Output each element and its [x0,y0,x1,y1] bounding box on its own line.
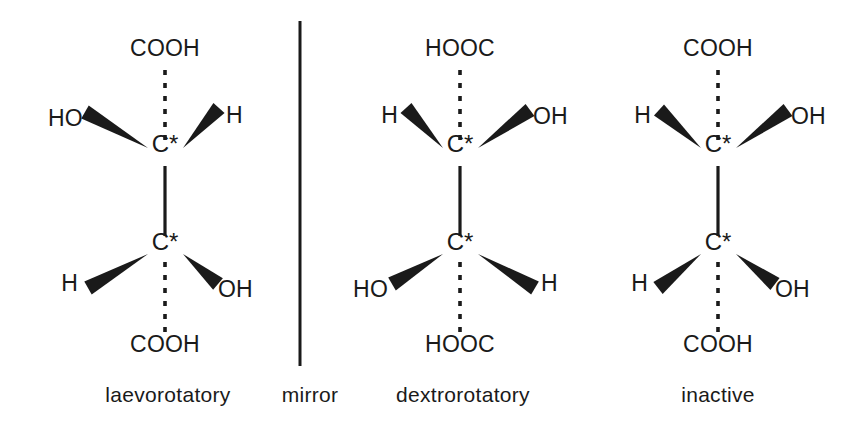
atom-label-laevorotatory-upper-right: H [226,102,243,128]
chiral-carbon-label-inactive-top: C* [705,130,732,157]
atom-label-dextrorotatory-bottom: HOOC [425,331,495,357]
atom-label-laevorotatory-lower-right: OH [218,276,253,302]
chiral-carbon-label-dextrorotatory-top: C* [447,130,474,157]
atom-label-laevorotatory-bottom: COOH [130,331,200,357]
caption-laevorotatory: laevorotatory [105,383,230,406]
chiral-carbon-label-inactive-bottom: C* [705,228,732,255]
figure-background [0,0,868,429]
atom-label-dextrorotatory-lower-left: HO [353,276,388,302]
atom-label-dextrorotatory-upper-left: H [381,102,398,128]
atom-label-inactive-upper-right: OH [791,103,826,129]
atom-label-dextrorotatory-upper-right: OH [533,103,568,129]
atom-label-inactive-upper-left: H [634,102,651,128]
chiral-carbon-label-laevorotatory-top: C* [152,130,179,157]
atom-label-inactive-top: COOH [683,35,753,61]
chiral-carbon-label-dextrorotatory-bottom: C* [447,228,474,255]
chiral-carbon-label-laevorotatory-bottom: C* [152,228,179,255]
atom-label-dextrorotatory-top: HOOC [425,35,495,61]
atom-label-laevorotatory-upper-left: HO [48,105,83,131]
atom-label-inactive-bottom: COOH [683,331,753,357]
caption-dextrorotatory: dextrorotatory [396,383,530,406]
molecule-diagram-canvas: COOHHOHC*COOHHOHC*HOOCHOHC*HOOCHOHC*COOH… [0,0,868,429]
atom-label-inactive-lower-right: OH [775,276,810,302]
atom-label-dextrorotatory-lower-right: H [541,270,558,296]
caption-inactive: inactive [681,383,755,406]
atom-label-inactive-lower-left: H [631,270,648,296]
atom-label-laevorotatory-lower-left: H [61,270,78,296]
atom-label-laevorotatory-top: COOH [130,35,200,61]
stereochemistry-figure: COOHHOHC*COOHHOHC*HOOCHOHC*HOOCHOHC*COOH… [0,0,868,429]
caption-mirror: mirror [282,383,339,406]
